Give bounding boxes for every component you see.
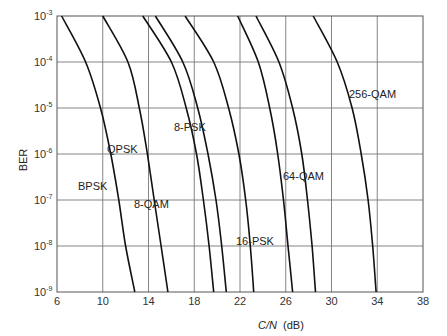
label-256-qam: 256-QAM	[349, 88, 396, 100]
x-tick-label: 26	[280, 295, 292, 307]
x-tick-label: 22	[234, 295, 246, 307]
y-axis-title: BER	[17, 149, 29, 172]
x-axis-ticks: 61014182226303438	[54, 295, 429, 307]
x-tick-label: 10	[97, 295, 109, 307]
x-axis-title: C/N (dB)	[258, 319, 304, 331]
label-16-psk: 16-PSK	[236, 235, 275, 247]
x-tick-label: 34	[371, 295, 383, 307]
y-tick-label: 10-5	[34, 101, 53, 114]
ber-vs-cn-chart: BPSKQPSK8-QAM8-PSK16-PSK64-QAM256-QAM 61…	[0, 0, 447, 336]
curve-labels: BPSKQPSK8-QAM8-PSK16-PSK64-QAM256-QAM	[78, 88, 396, 247]
y-tick-label: 10-6	[34, 147, 53, 160]
x-tick-label: 14	[142, 295, 154, 307]
x-tick-label: 6	[54, 295, 60, 307]
y-tick-label: 10-7	[34, 193, 53, 206]
y-tick-label: 10-4	[34, 55, 53, 68]
label-64-qam: 64-QAM	[283, 170, 324, 182]
y-axis-ticks: 10-310-410-510-610-710-810-9	[34, 9, 53, 298]
y-tick-label: 10-3	[34, 9, 53, 22]
y-tick-label: 10-9	[34, 285, 53, 298]
label-bpsk: BPSK	[78, 180, 108, 192]
label-8-psk: 8-PSK	[174, 121, 206, 133]
x-tick-label: 30	[325, 295, 337, 307]
y-tick-label: 10-8	[34, 239, 53, 252]
label-qpsk: QPSK	[107, 143, 138, 155]
label-8-qam: 8-QAM	[134, 198, 169, 210]
x-tick-label: 38	[417, 295, 429, 307]
x-tick-label: 18	[188, 295, 200, 307]
